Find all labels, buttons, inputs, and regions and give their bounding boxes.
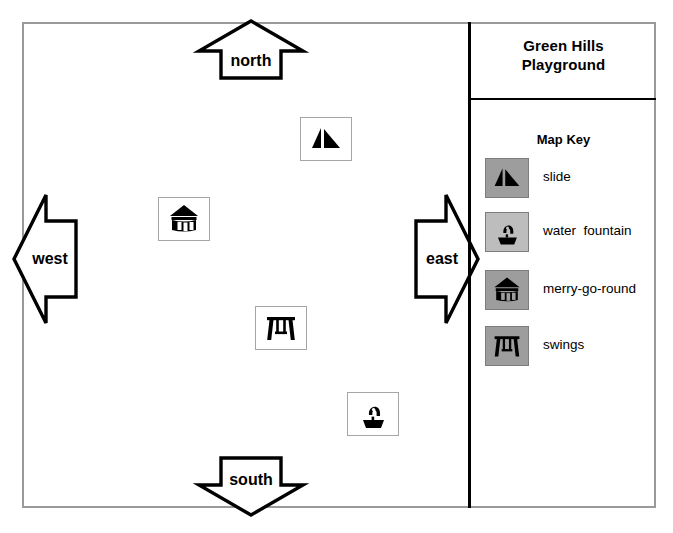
legend-label-merry-go-round: merry-go-round xyxy=(543,281,636,296)
compass-label-south: south xyxy=(196,471,306,489)
map-key-heading: Map Key xyxy=(471,132,656,147)
compass-label-north: north xyxy=(196,52,306,70)
water-fountain-icon xyxy=(494,219,521,246)
legend-item-slide[interactable]: slide xyxy=(485,158,657,202)
legend-label-swings: swings xyxy=(543,337,584,352)
legend-label-slide: slide xyxy=(543,169,571,184)
merry-go-round-icon xyxy=(168,204,200,234)
legend-item-merry-go-round[interactable]: merry-go-round xyxy=(485,270,657,314)
field-icon-water-fountain[interactable] xyxy=(347,392,399,436)
legend-panel: Green Hills Playground Map Key slide wat… xyxy=(471,22,656,508)
slide-icon xyxy=(492,167,522,190)
swings-icon xyxy=(493,335,522,358)
water-fountain-icon xyxy=(358,399,388,429)
compass-label-west: west xyxy=(22,250,78,268)
field-icon-merry-go-round[interactable] xyxy=(158,197,210,241)
field-icon-slide[interactable] xyxy=(300,117,352,161)
legend-item-swings[interactable]: swings xyxy=(485,326,657,370)
legend-item-water-fountain[interactable]: water fountain xyxy=(485,212,657,256)
page-title: Green Hills Playground xyxy=(471,36,656,74)
title-divider-rule xyxy=(471,98,656,100)
map-title-line-1: Green Hills xyxy=(523,37,603,54)
compass-south[interactable]: south xyxy=(196,455,306,517)
field-icon-swings[interactable] xyxy=(255,306,307,350)
compass-north[interactable]: north xyxy=(196,19,306,81)
legend-swatch-slide xyxy=(485,158,529,198)
legend-label-water-fountain: water fountain xyxy=(543,223,632,238)
compass-west[interactable]: west xyxy=(12,193,78,325)
legend-swatch-swings xyxy=(485,326,529,366)
compass-label-east: east xyxy=(414,250,470,268)
legend-swatch-water-fountain xyxy=(485,212,529,252)
legend-swatch-merry-go-round xyxy=(485,270,529,310)
merry-go-round-icon xyxy=(493,277,522,304)
swings-icon xyxy=(265,315,297,341)
map-title-box: Green Hills Playground xyxy=(471,22,656,98)
slide-icon xyxy=(309,126,343,152)
map-title-line-2: Playground xyxy=(522,56,606,73)
